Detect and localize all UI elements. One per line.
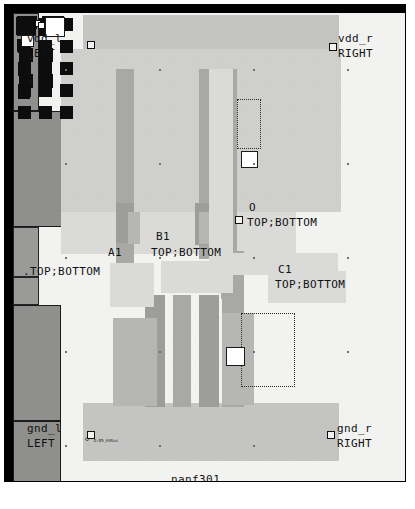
label-gnd-right: gnd_rRIGHT [337, 421, 372, 451]
label-pin-b1-name: B1 [156, 230, 170, 243]
label-pin-c1-name: C1 [278, 263, 292, 276]
contact[interactable] [60, 84, 73, 97]
label-pin-a1-layers: .TOP;BOTTOM [23, 265, 100, 278]
pin-marker-o[interactable] [235, 216, 243, 224]
label-pin-o-name: O [249, 201, 256, 214]
label-net-flag: D:B5_H4Sus [94, 438, 118, 443]
pin-marker-gnd-right[interactable] [327, 431, 335, 439]
pin-row-metal-b1[interactable] [161, 261, 233, 293]
poly-stripe-5[interactable] [173, 295, 191, 407]
contact[interactable] [18, 106, 31, 119]
selected-via-nmos-out[interactable] [226, 347, 245, 366]
poly-stripe-6[interactable] [199, 295, 219, 407]
pin-marker-vdd-right[interactable] [329, 43, 337, 51]
label-pin-c1-layers: TOP;BOTTOM [275, 278, 345, 291]
gnd-power-rail[interactable] [83, 403, 339, 461]
contact[interactable] [60, 106, 73, 119]
label-vdd-left-name: vdd_l [27, 32, 62, 45]
contact[interactable] [39, 74, 53, 88]
selection-box-out[interactable] [241, 313, 295, 387]
pin-marker-vdd-left[interactable] [87, 41, 95, 49]
label-gnd-right-side: RIGHT [337, 437, 372, 450]
label-gnd-left-name: gnd_l [27, 422, 62, 435]
label-cell-title: nanf301 [171, 473, 220, 481]
contact[interactable] [39, 106, 52, 119]
layout-viewer-window: vdd_lLEFT vdd_rRIGHT O TOP;BOTTOM B1 TOP… [0, 0, 415, 509]
label-gnd-left: gnd_lLEFT [27, 421, 62, 451]
label-vdd-right-name: vdd_r [338, 32, 373, 45]
metal-out-vertical[interactable] [209, 69, 233, 269]
label-vdd-left: vdd_lLEFT [27, 31, 62, 61]
contact-group-pmos-src-right[interactable] [13, 305, 61, 421]
pin-row-metal-a1[interactable] [110, 263, 154, 307]
metal-leg-left[interactable] [128, 212, 140, 244]
net-flag-arrow-icon: ◇ [85, 436, 89, 443]
contact-group-pmos-out-bottom[interactable] [13, 277, 39, 305]
label-vdd-right: vdd_rRIGHT [338, 31, 373, 61]
contact[interactable] [19, 74, 33, 88]
label-pin-a1-name: A1 [108, 246, 122, 259]
label-vdd-right-side: RIGHT [338, 47, 373, 60]
label-gnd-right-name: gnd_r [337, 422, 372, 435]
selected-via-pmos-out[interactable] [241, 151, 258, 168]
contact[interactable] [60, 62, 73, 75]
layout-canvas[interactable]: vdd_lLEFT vdd_rRIGHT O TOP;BOTTOM B1 TOP… [13, 13, 405, 481]
selection-box-pmos-out[interactable] [237, 99, 261, 149]
nmos-diffusion[interactable] [113, 318, 157, 406]
label-pin-o-layers: TOP;BOTTOM [247, 216, 317, 229]
pin-marker-c1[interactable] [38, 22, 45, 29]
label-pin-b1-layers: TOP;BOTTOM [151, 246, 221, 259]
label-vdd-left-side: LEFT [27, 47, 55, 60]
label-gnd-left-side: LEFT [27, 437, 55, 450]
canvas-frame: vdd_lLEFT vdd_rRIGHT O TOP;BOTTOM B1 TOP… [4, 4, 406, 482]
